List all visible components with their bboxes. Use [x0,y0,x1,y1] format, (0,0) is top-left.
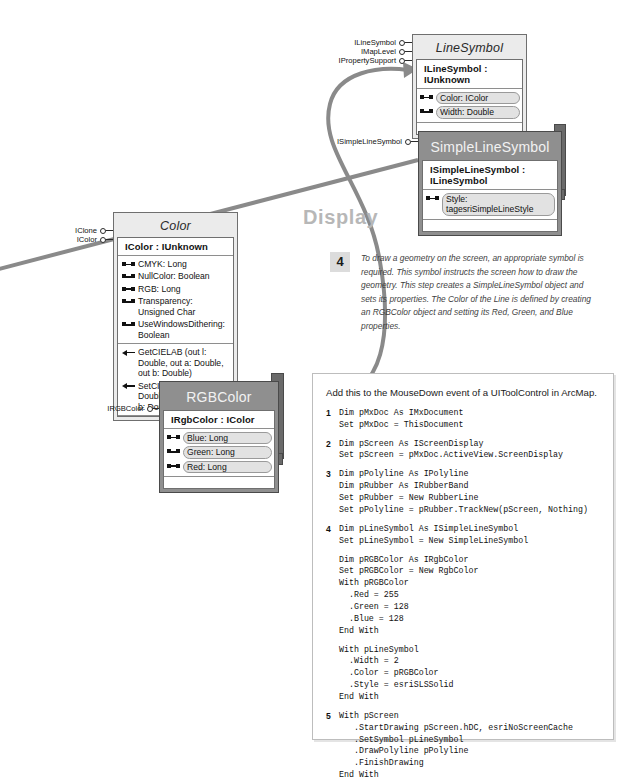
code-block: 3 Dim pPolyline As IPolyline Dim pRubber… [326,468,603,515]
step-number-badge: 4 [330,252,350,272]
member-row: Blue: Long [164,431,274,445]
lollipop-label: ISimpleLineSymbol [330,137,402,146]
member-label: Width: Double [436,106,520,118]
member-list-rgbcolor: Blue: Long Green: Long Red: Long [164,429,274,477]
property-icon [122,298,135,305]
member-list-linesymbol: Color: IColor Width: Double [417,89,522,123]
class-title-simplelinesymbol: SimpleLineSymbol [422,135,558,160]
member-label: NullColor: Boolean [138,271,231,281]
member-label: Color: IColor [436,92,520,104]
member-label: Green: Long [183,446,272,458]
lollipop-ipropertysupport[interactable]: IPropertySupport [330,56,412,65]
lollipop-stem [405,42,412,43]
lollipop-label: IRGBColor [101,404,144,413]
code-step-number: 4 [326,523,339,547]
member-row: NullColor: Boolean [118,270,233,282]
page-title: Display [303,206,378,229]
code-block: 1 Dim pMxDoc As IMxDocument Set pMxDoc =… [326,407,603,431]
code-step-number: 5 [326,710,339,781]
class-title-linesymbol: LineSymbol [416,38,523,59]
member-row: Transparency: Unsigned Char [118,295,233,318]
member-row: GetCIELAB (out l: Double, out a: Double,… [118,346,233,379]
lollipop-stem [106,230,113,231]
step-note: 4 To draw a geometry on the screen, an a… [330,252,598,334]
property-icon [167,434,180,441]
lollipop-stem [405,60,412,61]
member-row: Red: Long [164,460,274,474]
interface-label-ilinesymbol: ILineSymbol : IUnknown [417,60,522,89]
method-icon [122,349,135,356]
empty-compartment [423,220,557,231]
interface-label-irgbcolor: IRgbColor : IColor [164,411,274,429]
property-icon [420,108,433,115]
lollipop-label: IPropertySupport [330,56,396,65]
code-step-number: 3 [326,468,339,515]
member-row: Color: IColor [417,91,522,105]
class-body-rgbcolor: IRgbColor : IColor Blue: Long Green: Lon… [163,410,275,489]
property-list-color: CMYK: Long NullColor: Boolean RGB: Long … [118,256,233,344]
class-box-rgbcolor[interactable]: RGBColor IRgbColor : IColor Blue: Long G… [159,381,279,493]
lollipop-stem [106,239,113,240]
code-text: With pScreen .StartDrawing pScreen.hDC, … [339,710,603,781]
member-label: Blue: Long [183,432,272,444]
member-list-simplelinesymbol: Style: tagesriSimpleLineStyle [423,190,557,220]
code-text: Dim pMxDoc As IMxDocument Set pMxDoc = T… [339,407,603,431]
member-row: Style: tagesriSimpleLineStyle [423,192,557,217]
lollipop-isimplelinesymbol[interactable]: ISimpleLineSymbol [330,137,418,146]
property-icon [167,463,180,470]
code-text: Dim pRGBColor As IRgbColor Set pRGBColor… [339,554,603,637]
class-body-linesymbol: ILineSymbol : IUnknown Color: IColor Wid… [416,59,523,135]
member-label: GetCIELAB (out l: Double, out a: Double,… [138,347,231,378]
member-row: UseWindowsDithering: Boolean [118,318,233,341]
property-icon [122,321,135,328]
property-icon [167,448,180,455]
code-block: Dim pRGBColor As IRgbColor Set pRGBColor… [326,554,603,637]
code-text: Dim pPolyline As IPolyline Dim pRubber A… [339,468,603,515]
member-label: Transparency: Unsigned Char [138,296,231,317]
lollipop-label: ILineSymbol [330,38,396,47]
member-row: Width: Double [417,105,522,119]
lollipop-irgbcolor[interactable]: IRGBColor [101,404,159,413]
interface-label-icolor: IColor : IUnknown [118,238,233,256]
class-face-rgbcolor: RGBColor IRgbColor : IColor Blue: Long G… [159,381,279,493]
member-label: Red: Long [183,461,272,473]
member-row: RGB: Long [118,283,233,295]
code-text: Dim pLineSymbol As ISimpleLineSymbol Set… [339,523,603,547]
member-row: CMYK: Long [118,258,233,270]
lollipop-ilinesymbol[interactable]: ILineSymbol [330,38,412,47]
step-note-text: To draw a geometry on the screen, an app… [361,252,598,334]
class-box-simplelinesymbol[interactable]: SimpleLineSymbol ISimpleLineSymbol : ILi… [418,131,562,236]
lollipop-label: IMapLevel [330,47,396,56]
property-icon [420,94,433,101]
method-icon [122,383,135,390]
lollipop-icolor[interactable]: IColor [72,235,113,244]
empty-compartment [164,477,274,488]
property-icon [122,286,135,293]
member-label: RGB: Long [138,284,231,294]
member-row: Green: Long [164,445,274,459]
property-icon [122,261,135,268]
lollipop-iclone[interactable]: IClone [72,226,113,235]
class-title-rgbcolor: RGBColor [163,385,275,410]
lollipop-imaplevel[interactable]: IMapLevel [330,47,412,56]
class-title-color: Color [117,216,234,237]
lollipop-stem [411,141,418,142]
member-label: Style: tagesriSimpleLineStyle [442,193,555,216]
member-label: UseWindowsDithering: Boolean [138,319,231,340]
lollipop-label: IColor [72,235,97,244]
class-face-simplelinesymbol: SimpleLineSymbol ISimpleLineSymbol : ILi… [418,131,562,236]
code-panel-header: Add this to the MouseDown event of a UIT… [326,386,603,400]
code-text: Dim pScreen As IScreenDisplay Set pScree… [339,438,603,462]
class-body-simplelinesymbol: ISimpleLineSymbol : ILineSymbol Style: t… [422,160,558,232]
code-step-number: 2 [326,438,339,462]
code-step-number: 1 [326,407,339,431]
class-box-linesymbol[interactable]: LineSymbol ILineSymbol : IUnknown Color:… [412,34,527,139]
code-panel[interactable]: Add this to the MouseDown event of a UIT… [312,373,614,740]
code-block: 2 Dim pScreen As IScreenDisplay Set pScr… [326,438,603,462]
code-block: 4 Dim pLineSymbol As ISimpleLineSymbol S… [326,523,603,547]
member-label: CMYK: Long [138,259,231,269]
code-block: With pLineSymbol .Width = 2 .Color = pRG… [326,644,603,703]
interface-label-isimplelinesymbol: ISimpleLineSymbol : ILineSymbol [423,161,557,190]
code-text: With pLineSymbol .Width = 2 .Color = pRG… [339,644,603,703]
